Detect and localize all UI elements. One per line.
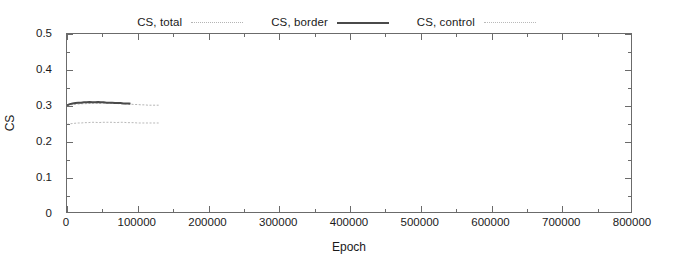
y-tick-label: 0.3 bbox=[36, 99, 52, 111]
y-tick-major bbox=[67, 70, 73, 71]
y-tick-minor bbox=[67, 124, 70, 125]
x-tick-minor bbox=[456, 34, 457, 37]
legend-label-cs-total: CS, total bbox=[137, 16, 182, 28]
y-axis-tick-labels: 00.10.20.30.40.5 bbox=[0, 33, 60, 213]
x-axis-title: Epoch bbox=[66, 240, 632, 254]
y-tick-minor bbox=[67, 196, 70, 197]
y-tick-major bbox=[625, 178, 631, 179]
x-tick-label: 400000 bbox=[330, 216, 368, 228]
x-tick-major bbox=[138, 206, 139, 212]
y-tick-label: 0.2 bbox=[36, 135, 52, 147]
x-tick-minor bbox=[244, 34, 245, 37]
chart-legend: CS, total CS, border CS, control bbox=[0, 12, 673, 32]
y-tick-label: 0.1 bbox=[36, 171, 52, 183]
legend-label-cs-border: CS, border bbox=[271, 16, 328, 28]
x-tick-major bbox=[421, 34, 422, 40]
y-tick-major bbox=[625, 142, 631, 143]
x-tick-minor bbox=[315, 209, 316, 212]
x-tick-major bbox=[492, 206, 493, 212]
x-tick-label: 0 bbox=[63, 216, 69, 228]
x-tick-minor bbox=[527, 209, 528, 212]
y-tick-minor bbox=[628, 196, 631, 197]
x-tick-major bbox=[562, 34, 563, 40]
x-tick-minor bbox=[385, 34, 386, 37]
x-tick-minor bbox=[456, 209, 457, 212]
y-tick-minor bbox=[628, 52, 631, 53]
legend-line-sample-cs-total bbox=[191, 17, 243, 27]
x-tick-major bbox=[350, 34, 351, 40]
y-tick-minor bbox=[628, 88, 631, 89]
x-tick-label: 200000 bbox=[188, 216, 226, 228]
y-tick-major bbox=[67, 142, 73, 143]
x-tick-major bbox=[138, 34, 139, 40]
y-tick-minor bbox=[67, 52, 70, 53]
x-tick-major bbox=[209, 34, 210, 40]
y-tick-minor bbox=[67, 160, 70, 161]
chart-figure: CS, total CS, border CS, control CS 00.1… bbox=[0, 0, 673, 275]
y-tick-major bbox=[625, 70, 631, 71]
x-tick-minor bbox=[173, 34, 174, 37]
x-tick-label: 300000 bbox=[259, 216, 297, 228]
plot-inner bbox=[67, 34, 631, 212]
y-tick-label: 0 bbox=[46, 207, 52, 219]
legend-line-sample-cs-control bbox=[484, 17, 536, 27]
x-tick-major bbox=[562, 206, 563, 212]
x-tick-major bbox=[67, 206, 68, 212]
y-tick-major bbox=[625, 34, 631, 35]
x-tick-minor bbox=[244, 209, 245, 212]
y-tick-major bbox=[625, 106, 631, 107]
x-tick-minor bbox=[102, 34, 103, 37]
legend-entry-cs-control: CS, control bbox=[417, 16, 536, 28]
y-tick-major bbox=[67, 178, 73, 179]
y-tick-minor bbox=[628, 124, 631, 125]
x-tick-label: 600000 bbox=[471, 216, 509, 228]
y-tick-minor bbox=[67, 88, 70, 89]
legend-line-sample-cs-border bbox=[337, 17, 389, 27]
y-tick-label: 0.4 bbox=[36, 63, 52, 75]
y-tick-label: 0.5 bbox=[36, 27, 52, 39]
x-tick-label: 700000 bbox=[542, 216, 580, 228]
x-tick-minor bbox=[173, 209, 174, 212]
x-tick-major bbox=[279, 34, 280, 40]
legend-entry-cs-border: CS, border bbox=[271, 16, 389, 28]
series-line-cs-control bbox=[67, 122, 159, 124]
x-tick-major bbox=[279, 206, 280, 212]
x-tick-minor bbox=[385, 209, 386, 212]
x-tick-major bbox=[350, 206, 351, 212]
x-tick-major bbox=[421, 206, 422, 212]
x-tick-minor bbox=[598, 34, 599, 37]
x-tick-minor bbox=[315, 34, 316, 37]
legend-label-cs-control: CS, control bbox=[417, 16, 475, 28]
x-axis-tick-labels: 0100000200000300000400000500000600000700… bbox=[66, 216, 632, 232]
y-tick-minor bbox=[628, 160, 631, 161]
x-tick-label: 100000 bbox=[118, 216, 156, 228]
x-tick-minor bbox=[527, 34, 528, 37]
x-tick-label: 800000 bbox=[613, 216, 651, 228]
x-tick-major bbox=[492, 34, 493, 40]
series-line-cs-border bbox=[67, 102, 130, 105]
legend-entry-cs-total: CS, total bbox=[137, 16, 243, 28]
x-tick-minor bbox=[598, 209, 599, 212]
y-tick-major bbox=[67, 106, 73, 107]
x-tick-label: 500000 bbox=[401, 216, 439, 228]
plot-area bbox=[66, 33, 632, 213]
series-lines bbox=[67, 34, 631, 212]
x-tick-minor bbox=[102, 209, 103, 212]
x-tick-major bbox=[209, 206, 210, 212]
x-tick-major bbox=[67, 34, 68, 40]
